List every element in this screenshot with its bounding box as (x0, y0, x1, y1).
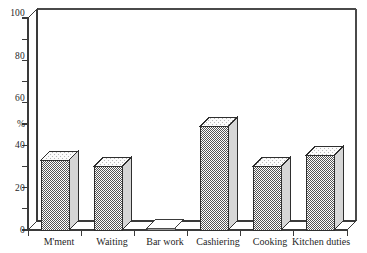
x-tick-cooking: Cooking (253, 236, 287, 248)
y-axis-labels: 100 80 60 % 40 20 0 (0, 0, 25, 253)
bar-mment (41, 151, 78, 230)
bar-waiting (94, 157, 131, 230)
y-tick-80: 80 (1, 51, 25, 61)
x-tick-kitchen-duties: Kitchen duties (292, 236, 350, 248)
bar-cooking (253, 157, 290, 230)
x-tick-cashiering: Cashiering (196, 236, 239, 248)
y-tick-40: 40 (1, 140, 25, 150)
y-tick-0: 0 (1, 225, 25, 235)
y-axis-unit-label: % (1, 119, 25, 129)
chart-canvas (0, 0, 367, 253)
x-tick-bar-work: Bar work (146, 236, 184, 248)
y-tick-20: 20 (1, 183, 25, 193)
bar-kitchen-duties (306, 147, 343, 230)
bar-chart: 100 80 60 % 40 20 0 M'ment Waiting Bar w… (0, 0, 367, 253)
x-tick-waiting: Waiting (96, 236, 127, 248)
axis-wall-left (28, 9, 37, 230)
bar-cashiering (200, 117, 237, 230)
y-tick-60: 60 (1, 93, 25, 103)
y-tick-100: 100 (1, 8, 25, 18)
x-tick-mment: M'ment (44, 236, 75, 248)
